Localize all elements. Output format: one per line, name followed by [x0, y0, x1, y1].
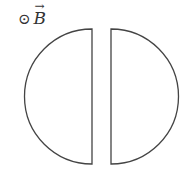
left-dee	[25, 29, 93, 164]
cyclotron-diagram	[0, 0, 195, 189]
right-dee	[111, 29, 179, 164]
